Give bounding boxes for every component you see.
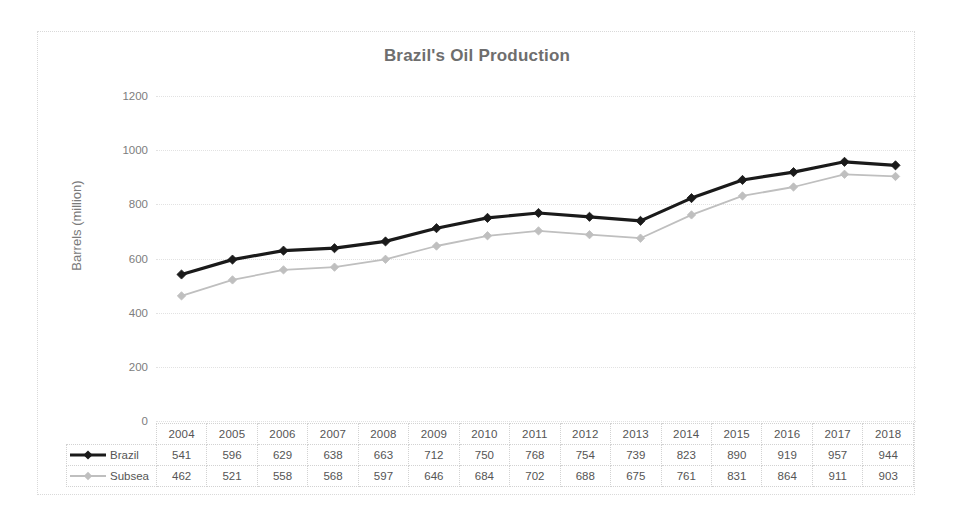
table-column-header: 2008 xyxy=(358,424,408,445)
table-cell: 688 xyxy=(560,466,610,487)
table-cell: 919 xyxy=(762,445,812,466)
table-cell: 702 xyxy=(510,466,560,487)
data-point-marker xyxy=(534,227,542,235)
plot-area xyxy=(156,96,916,421)
chart-title: Brazil's Oil Production xyxy=(38,46,916,66)
legend-key-icon xyxy=(69,470,107,482)
data-point-marker xyxy=(636,216,645,225)
table-column-header: 2005 xyxy=(207,424,257,445)
data-point-marker xyxy=(330,263,338,271)
table-cell: 558 xyxy=(257,466,307,487)
table-row: Subsea4625215585685976466847026886757618… xyxy=(67,466,914,487)
table-cell: 761 xyxy=(661,466,711,487)
y-axis-title: Barrels (million) xyxy=(69,136,84,316)
data-point-marker xyxy=(483,232,491,240)
table-cell: 596 xyxy=(207,445,257,466)
data-point-marker xyxy=(177,270,186,279)
data-point-marker xyxy=(840,170,848,178)
data-point-marker xyxy=(891,172,899,180)
table-cell: 712 xyxy=(409,445,459,466)
data-point-marker xyxy=(330,244,339,253)
legend-entry-brazil[interactable]: Brazil xyxy=(67,445,157,466)
data-point-marker xyxy=(738,175,747,184)
data-point-marker xyxy=(228,276,236,284)
table-column-header: 2014 xyxy=(661,424,711,445)
data-point-marker xyxy=(228,255,237,264)
legend-label: Brazil xyxy=(110,449,139,461)
y-tick-label: 1000 xyxy=(96,144,148,156)
table-cell: 629 xyxy=(257,445,307,466)
table-cell: 864 xyxy=(762,466,812,487)
table-cell: 944 xyxy=(863,445,914,466)
table-column-header: 2009 xyxy=(409,424,459,445)
data-point-marker xyxy=(483,213,492,222)
data-point-marker xyxy=(585,212,594,221)
table-cell: 903 xyxy=(863,466,914,487)
table-cell: 541 xyxy=(156,445,206,466)
series-subsea xyxy=(177,170,899,300)
table-column-header: 2006 xyxy=(257,424,307,445)
data-point-marker xyxy=(279,266,287,274)
table-cell: 684 xyxy=(459,466,509,487)
chart-frame: Brazil's Oil Production Barrels (million… xyxy=(37,31,915,495)
table-column-header: 2015 xyxy=(711,424,761,445)
gridline xyxy=(156,421,916,422)
table-column-header: 2004 xyxy=(156,424,206,445)
table-cell: 646 xyxy=(409,466,459,487)
series-layer xyxy=(156,96,916,421)
series-brazil xyxy=(177,157,900,279)
table-cell: 675 xyxy=(611,466,661,487)
table-column-header: 2013 xyxy=(611,424,661,445)
data-point-marker xyxy=(789,183,797,191)
y-tick-label: 800 xyxy=(96,198,148,210)
data-point-marker xyxy=(381,255,389,263)
data-point-marker xyxy=(432,224,441,233)
data-point-marker xyxy=(687,194,696,203)
table-corner-cell xyxy=(67,424,157,445)
y-tick-label: 1200 xyxy=(96,90,148,102)
data-point-marker xyxy=(789,168,798,177)
table-cell: 739 xyxy=(611,445,661,466)
table-cell: 754 xyxy=(560,445,610,466)
data-table: 2004200520062007200820092010201120122013… xyxy=(66,423,914,487)
table-cell: 911 xyxy=(812,466,862,487)
table-body: Brazil5415966296386637127507687547398238… xyxy=(67,445,914,487)
table-cell: 750 xyxy=(459,445,509,466)
data-point-marker xyxy=(279,246,288,255)
table-column-header: 2018 xyxy=(863,424,914,445)
data-point-marker xyxy=(534,208,543,217)
table-cell: 663 xyxy=(358,445,408,466)
table-cell: 768 xyxy=(510,445,560,466)
data-point-marker xyxy=(381,237,390,246)
table-column-header: 2011 xyxy=(510,424,560,445)
table-cell: 890 xyxy=(711,445,761,466)
data-point-marker xyxy=(687,211,695,219)
data-point-marker xyxy=(738,192,746,200)
table-column-header: 2007 xyxy=(308,424,358,445)
table-cell: 462 xyxy=(156,466,206,487)
table-cell: 638 xyxy=(308,445,358,466)
data-point-marker xyxy=(177,292,185,300)
data-point-marker xyxy=(432,242,440,250)
table-cell: 823 xyxy=(661,445,711,466)
table-cell: 568 xyxy=(308,466,358,487)
legend-label: Subsea xyxy=(110,470,149,482)
table-column-header: 2012 xyxy=(560,424,610,445)
data-point-marker xyxy=(636,234,644,242)
table-cell: 831 xyxy=(711,466,761,487)
table-cell: 957 xyxy=(812,445,862,466)
table-column-header: 2016 xyxy=(762,424,812,445)
table-column-header: 2017 xyxy=(812,424,862,445)
data-point-marker xyxy=(891,161,900,170)
y-tick-label: 600 xyxy=(96,253,148,265)
data-point-marker xyxy=(840,157,849,166)
y-tick-label: 200 xyxy=(96,361,148,373)
legend-key-icon xyxy=(69,449,107,461)
table-cell: 597 xyxy=(358,466,408,487)
table-header-row: 2004200520062007200820092010201120122013… xyxy=(67,424,914,445)
table-row: Brazil5415966296386637127507687547398238… xyxy=(67,445,914,466)
table-column-header: 2010 xyxy=(459,424,509,445)
table-cell: 521 xyxy=(207,466,257,487)
legend-entry-subsea[interactable]: Subsea xyxy=(67,466,157,487)
y-tick-label: 400 xyxy=(96,307,148,319)
